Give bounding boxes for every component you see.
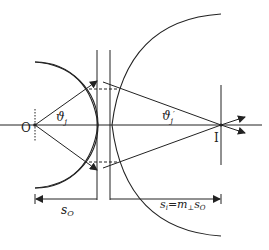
ray-exit-up xyxy=(221,117,245,125)
label-I: I xyxy=(214,131,219,145)
image-point xyxy=(219,123,222,126)
ray-lower-left xyxy=(35,125,97,170)
label-s-i: si=m⊥sO xyxy=(160,198,206,212)
label-O: O xyxy=(21,121,31,135)
label-theta-j: ϑj xyxy=(56,110,68,126)
ray-lower-right xyxy=(103,125,221,168)
label-theta-j-prime: ϑj′ xyxy=(162,109,175,125)
label-s-o: sO xyxy=(61,203,74,218)
ray-exit-down xyxy=(221,125,245,133)
optics-diagram: O I ϑj ϑj′ sO si=m⊥sO xyxy=(0,0,269,250)
